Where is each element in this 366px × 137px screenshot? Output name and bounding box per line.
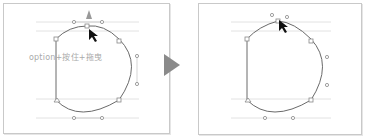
after-diagram xyxy=(199,4,361,134)
arrow-right-icon xyxy=(164,54,180,76)
before-panel: option+按住+拖曳 xyxy=(3,3,170,134)
before-diagram xyxy=(4,4,169,133)
after-panel xyxy=(198,3,362,135)
drag-caption: option+按住+拖曳 xyxy=(29,51,102,62)
